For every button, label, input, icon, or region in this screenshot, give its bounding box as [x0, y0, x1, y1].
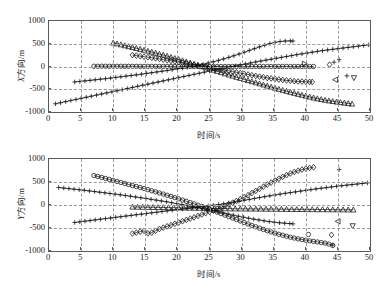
x-axis-tick-label: 30	[236, 253, 245, 262]
x-axis-tick-label: 5	[78, 253, 82, 262]
y-axis-tick-label: 500	[32, 39, 45, 48]
y-axis-tick-label: 1000	[28, 154, 45, 163]
x-axis-tick-label: 50	[365, 114, 374, 123]
gridline-horizontal	[49, 89, 370, 90]
x-axis-tick-mark	[337, 108, 338, 111]
y-axis-tick-mark	[48, 43, 51, 44]
x-axis-tick-mark	[144, 108, 145, 111]
x-axis-tick-mark	[369, 108, 370, 111]
x-axis-tick-mark	[176, 108, 177, 111]
gridline-horizontal	[49, 205, 370, 206]
chart-panel-x-direction: -1000-5000500100005101520253035404550 X方…	[0, 0, 383, 147]
x-axis-tick-mark	[305, 108, 306, 111]
x-axis-tick-mark	[112, 247, 113, 250]
y-axis-tick-label: 1000	[28, 16, 45, 25]
series-line	[75, 183, 368, 223]
x-axis-tick-label: 40	[301, 114, 310, 123]
gridline-horizontal	[49, 67, 370, 68]
y-axis-tick-mark	[48, 20, 51, 21]
y-axis-tick-mark	[48, 88, 51, 89]
y-axis-tick-label: -500	[29, 84, 45, 93]
x-axis-label-bottom: 时间/s	[48, 267, 369, 279]
y-axis-tick-mark	[48, 181, 51, 182]
x-axis-tick-mark	[305, 247, 306, 250]
x-axis-tick-label: 30	[236, 114, 245, 123]
y-axis-tick-mark	[48, 111, 51, 112]
x-axis-tick-label: 25	[204, 253, 213, 262]
x-axis-tick-label: 40	[301, 253, 310, 262]
x-axis-tick-mark	[144, 247, 145, 250]
x-axis-tick-mark	[176, 247, 177, 250]
x-axis-tick-label: 45	[333, 114, 342, 123]
x-axis-tick-label: 15	[140, 114, 149, 123]
x-axis-tick-label: 10	[108, 253, 117, 262]
plot-area-bottom	[48, 158, 371, 252]
y-axis-tick-mark	[48, 227, 51, 228]
x-axis-tick-mark	[369, 247, 370, 250]
x-axis-tick-mark	[209, 247, 210, 250]
y-axis-tick-mark	[48, 204, 51, 205]
x-axis-tick-mark	[241, 247, 242, 250]
x-axis-tick-mark	[80, 108, 81, 111]
gridline-horizontal	[49, 44, 370, 45]
x-axis-tick-mark	[209, 108, 210, 111]
y-axis-tick-label: -500	[29, 223, 45, 232]
x-axis-tick-mark	[48, 108, 49, 111]
x-axis-tick-label: 45	[333, 253, 342, 262]
x-axis-tick-label: 35	[268, 114, 277, 123]
x-axis-tick-mark	[48, 247, 49, 250]
x-axis-tick-mark	[80, 247, 81, 250]
plot-area-top	[48, 20, 371, 113]
x-axis-tick-label: 25	[204, 114, 213, 123]
y-axis-tick-label: -1000	[25, 107, 45, 116]
x-axis-tick-label: 5	[78, 114, 82, 123]
gridline-horizontal	[49, 182, 370, 183]
x-axis-tick-label: 15	[140, 253, 149, 262]
chart-panel-y-direction: -1000-5000500100005101520253035404550 Y方…	[0, 147, 383, 294]
x-axis-label-top: 时间/s	[48, 128, 369, 140]
x-axis-tick-label: 20	[172, 114, 181, 123]
x-axis-tick-mark	[241, 108, 242, 111]
x-axis-tick-label: 50	[365, 253, 374, 262]
y-axis-tick-mark	[48, 66, 51, 67]
x-axis-tick-label: 0	[46, 253, 50, 262]
y-axis-tick-label: 0	[41, 200, 45, 209]
figure-container: -1000-5000500100005101520253035404550 X方…	[0, 0, 383, 294]
x-axis-tick-label: 0	[46, 114, 50, 123]
x-axis-tick-label: 20	[172, 253, 181, 262]
x-axis-tick-mark	[273, 247, 274, 250]
y-axis-tick-label: 500	[32, 177, 45, 186]
x-axis-tick-label: 35	[268, 253, 277, 262]
x-axis-tick-label: 10	[108, 114, 117, 123]
series-line	[55, 45, 368, 104]
y-axis-label-bottom: Y方向/m	[14, 174, 26, 234]
y-axis-tick-label: -1000	[25, 246, 45, 255]
y-axis-tick-mark	[48, 250, 51, 251]
gridline-horizontal	[49, 228, 370, 229]
x-axis-tick-mark	[112, 108, 113, 111]
y-axis-tick-label: 0	[41, 61, 45, 70]
y-axis-label-top: X方向/m	[14, 36, 26, 96]
x-axis-tick-mark	[273, 108, 274, 111]
y-axis-tick-mark	[48, 158, 51, 159]
x-axis-tick-mark	[337, 247, 338, 250]
